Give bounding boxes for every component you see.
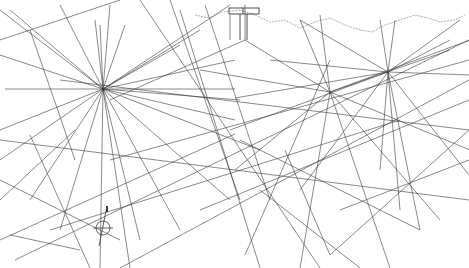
rhumb-line	[10, 10, 103, 89]
rhumb-line	[340, 160, 469, 210]
rhumb-line	[103, 89, 260, 150]
rhumb-line	[0, 10, 103, 89]
rhumb-line	[110, 60, 469, 160]
rhumb-line	[103, 25, 125, 89]
rhumb-line	[0, 134, 235, 240]
rhumb-line	[103, 60, 235, 89]
rhumb-line-chart-sketch	[0, 0, 469, 268]
rhumb-line	[235, 92, 330, 170]
rhumb-line	[330, 92, 390, 268]
rhumb-line	[60, 89, 103, 230]
rhumb-line	[240, 140, 420, 230]
rhumb-line	[100, 25, 103, 89]
rhumb-line	[30, 30, 75, 160]
rhumb-line	[330, 130, 469, 255]
rhumb-line	[0, 140, 469, 200]
rhumb-line	[388, 72, 469, 175]
rhumb-line	[388, 20, 460, 72]
rhumb-line	[120, 80, 469, 268]
rhumb-line	[0, 0, 120, 40]
rhumb-line	[103, 89, 130, 268]
rhumb-line	[15, 40, 469, 260]
rhumb-line	[110, 40, 245, 100]
rhumb-line	[235, 72, 388, 98]
rhumb-line	[330, 92, 469, 150]
rhumb-line	[388, 20, 395, 72]
rhumb-line	[0, 89, 103, 160]
rhumb-line	[140, 0, 320, 268]
rhumb-line	[200, 100, 469, 210]
rhumb-line	[103, 89, 240, 100]
rhumb-line	[103, 5, 230, 89]
rhumb-line	[100, 89, 103, 268]
rhumb-line	[0, 89, 103, 130]
rhumb-line	[388, 40, 450, 72]
rhumb-line	[0, 55, 103, 89]
rhumb-line	[95, 20, 103, 89]
rhumb-line	[10, 235, 80, 250]
rhumb-line	[230, 72, 388, 130]
rhumb-line	[103, 89, 140, 240]
rhumb-lines	[0, 0, 469, 268]
rhumb-line	[103, 45, 180, 89]
rhumb-line	[388, 72, 420, 230]
rhumb-line	[30, 89, 103, 200]
rhumb-line	[260, 190, 360, 268]
line-drawing	[0, 0, 469, 268]
rhumb-line	[103, 5, 110, 89]
rhumb-line	[103, 30, 200, 89]
rhumb-line	[380, 20, 388, 72]
compass-rose-icon	[93, 206, 113, 246]
tower-structure-icon	[229, 8, 259, 40]
rhumb-line	[103, 89, 180, 230]
rhumb-line	[0, 130, 75, 200]
coastline-outline	[195, 10, 465, 32]
